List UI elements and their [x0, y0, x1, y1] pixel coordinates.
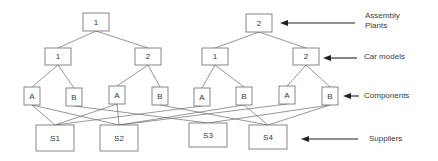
supplier-node-s3: S3	[189, 123, 227, 147]
plant-car-edge	[96, 31, 148, 48]
node-label: A	[199, 93, 205, 102]
plant-car-edge	[58, 31, 96, 48]
supplier-node-s1: S1	[36, 125, 74, 151]
level-label-plants: AssemblyPlants	[280, 11, 400, 30]
node-label: 1	[213, 52, 218, 61]
node-label: S4	[263, 133, 273, 142]
component-node-k7: A	[279, 86, 295, 104]
node-label: B	[327, 92, 332, 101]
arrow-left-icon	[301, 136, 309, 142]
node-label: S1	[50, 134, 60, 143]
supplier-node-s2: S2	[100, 125, 138, 151]
node-label: 2	[146, 52, 151, 61]
node-label: 2	[257, 19, 262, 28]
level-label-text: Suppliers	[369, 134, 402, 143]
node-label: B	[157, 92, 162, 101]
component-node-k5: A	[194, 88, 210, 106]
level-labels: AssemblyPlantsCar modelsComponentsSuppli…	[280, 11, 409, 143]
car-model-node-c12: 2	[135, 48, 161, 65]
level-label-cars: Car models	[323, 52, 405, 61]
arrow-left-icon	[280, 20, 288, 26]
plant-car-edge	[215, 32, 259, 48]
plant-node-p1: 1	[83, 13, 109, 31]
component-node-k1: A	[24, 87, 40, 105]
arrow-left-icon	[343, 93, 351, 99]
component-supplier-edge	[117, 104, 119, 125]
level-label-components: Components	[343, 91, 409, 100]
node-label: B	[71, 93, 76, 102]
node-label: A	[284, 91, 290, 100]
car-component-edge	[215, 65, 244, 87]
car-component-edge	[32, 65, 58, 87]
component-node-k6: B	[236, 87, 252, 105]
node-label: A	[29, 92, 35, 101]
node-label: 1	[94, 18, 99, 27]
car-model-node-c21: 1	[202, 48, 228, 65]
component-supplier-edge	[119, 105, 244, 125]
car-component-edge	[117, 65, 148, 86]
supply-chain-diagram: 121212ABABABABS1S2S3S4 AssemblyPlantsCar…	[0, 0, 438, 161]
component-node-k4: B	[152, 87, 168, 105]
car-model-node-c11: 1	[45, 48, 71, 65]
node-label: B	[241, 92, 246, 101]
node-label: A	[114, 91, 120, 100]
car-component-edge	[58, 65, 74, 88]
plant-car-edge	[259, 32, 306, 48]
component-supplier-edge	[268, 105, 330, 125]
component-supplier-edge	[119, 104, 287, 125]
car-component-edge	[148, 65, 160, 87]
level-label-text: Components	[364, 91, 409, 100]
supplier-node-s4: S4	[249, 125, 287, 149]
arrow-left-icon	[323, 55, 331, 61]
plant-node-p2: 2	[246, 14, 272, 32]
car-component-edge	[287, 65, 306, 86]
node-label: 2	[304, 52, 309, 61]
connection-lines	[32, 31, 330, 125]
level-label-suppliers: Suppliers	[301, 134, 402, 143]
component-node-k8: B	[322, 87, 338, 105]
level-label-text: Car models	[364, 52, 405, 61]
car-component-edge	[202, 65, 215, 88]
node-label: S2	[114, 134, 124, 143]
car-component-edge	[306, 65, 330, 87]
component-node-k3: A	[109, 86, 125, 104]
node-label: 1	[56, 52, 61, 61]
component-node-k2: B	[66, 88, 82, 106]
node-label: S3	[203, 131, 213, 140]
component-supplier-edge	[55, 104, 117, 125]
car-model-node-c22: 2	[293, 48, 319, 65]
level-label-text: Assembly	[365, 11, 400, 20]
level-label-text: Plants	[365, 21, 387, 30]
component-supplier-edge	[74, 106, 208, 123]
